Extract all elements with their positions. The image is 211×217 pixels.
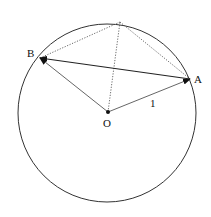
label-b: B [27,47,34,59]
label-o: O [103,117,111,129]
label-a: A [194,73,202,85]
segment-b-c-dotted [40,22,120,58]
label-radius: 1 [150,97,156,109]
segment-o-c-dotted [108,22,120,112]
point-o [106,110,110,114]
vector-o-a [108,79,190,112]
diagram-canvas: B A O 1 [0,0,211,217]
